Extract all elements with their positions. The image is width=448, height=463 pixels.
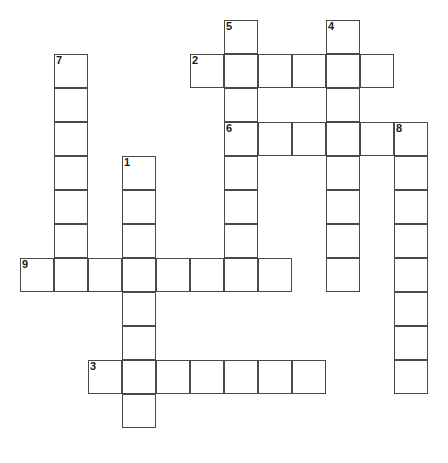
crossword-cell[interactable] [326,190,360,224]
crossword-cell[interactable] [326,20,360,54]
crossword-cell[interactable] [224,88,258,122]
crossword-cell[interactable] [394,156,428,190]
crossword-grid: 123456789 [0,0,448,463]
crossword-cell[interactable] [292,54,326,88]
crossword-cell[interactable] [258,54,292,88]
crossword-cell[interactable] [258,122,292,156]
crossword-cell[interactable] [122,360,156,394]
crossword-cell[interactable] [54,190,88,224]
crossword-cell[interactable] [122,190,156,224]
crossword-cell[interactable] [20,258,54,292]
crossword-cell[interactable] [122,224,156,258]
crossword-cell[interactable] [224,224,258,258]
crossword-cell[interactable] [394,122,428,156]
crossword-cell[interactable] [156,258,190,292]
crossword-cell[interactable] [292,122,326,156]
crossword-cell[interactable] [54,88,88,122]
crossword-cell[interactable] [326,156,360,190]
crossword-cell[interactable] [360,122,394,156]
crossword-cell[interactable] [122,258,156,292]
crossword-cell[interactable] [122,326,156,360]
crossword-cell[interactable] [394,326,428,360]
crossword-cell[interactable] [224,20,258,54]
crossword-cell[interactable] [224,258,258,292]
crossword-cell[interactable] [258,258,292,292]
crossword-cell[interactable] [394,360,428,394]
crossword-cell[interactable] [54,258,88,292]
crossword-cell[interactable] [224,156,258,190]
crossword-cell[interactable] [54,54,88,88]
crossword-cell[interactable] [224,122,258,156]
crossword-cell[interactable] [360,54,394,88]
crossword-cell[interactable] [292,360,326,394]
crossword-cell[interactable] [326,122,360,156]
crossword-cell[interactable] [88,258,122,292]
crossword-cell[interactable] [326,88,360,122]
crossword-cell[interactable] [190,258,224,292]
crossword-cell[interactable] [190,360,224,394]
crossword-cell[interactable] [326,258,360,292]
crossword-cell[interactable] [224,54,258,88]
crossword-cell[interactable] [394,258,428,292]
crossword-cell[interactable] [122,292,156,326]
crossword-cell[interactable] [326,224,360,258]
crossword-cell[interactable] [54,122,88,156]
crossword-cell[interactable] [394,224,428,258]
crossword-cell[interactable] [190,54,224,88]
crossword-cell[interactable] [224,360,258,394]
crossword-cell[interactable] [394,190,428,224]
crossword-cell[interactable] [326,54,360,88]
crossword-cell[interactable] [88,360,122,394]
crossword-cell[interactable] [122,156,156,190]
crossword-cell[interactable] [258,360,292,394]
crossword-cell[interactable] [224,190,258,224]
crossword-cell[interactable] [156,360,190,394]
crossword-cell[interactable] [54,224,88,258]
crossword-cell[interactable] [54,156,88,190]
crossword-cell[interactable] [122,394,156,428]
crossword-cell[interactable] [394,292,428,326]
